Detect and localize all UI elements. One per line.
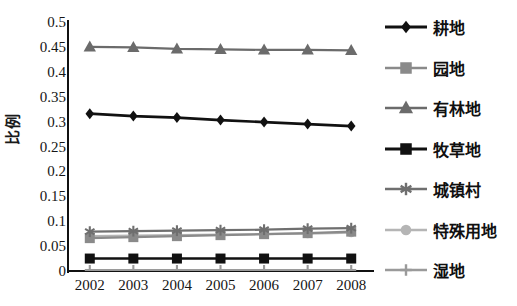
- legend-item-5[interactable]: 特殊用地: [383, 213, 517, 247]
- y-axis-tick-labels: 00.050.10.150.20.250.30.350.40.450.5: [16, 0, 66, 306]
- x-tick-label: 2005: [198, 277, 244, 294]
- data-point-marker: [400, 143, 412, 155]
- x-tick-label: 2006: [241, 277, 287, 294]
- data-point-marker: [216, 115, 225, 126]
- legend-label: 湿地: [433, 258, 465, 282]
- legend-marker-square-icon: [383, 55, 429, 81]
- data-point-marker: [401, 224, 412, 235]
- x-tick-label: 2008: [328, 277, 374, 294]
- data-point-marker: [85, 108, 94, 119]
- legend-item-3[interactable]: 牧草地: [383, 132, 517, 166]
- data-point-marker: [216, 265, 226, 271]
- data-point-marker: [346, 254, 356, 264]
- y-tick-label: 0.5: [20, 16, 66, 28]
- data-point-marker: [401, 21, 411, 34]
- x-tick-label: 2004: [154, 277, 200, 294]
- legend-item-4[interactable]: 城镇村: [383, 172, 517, 206]
- y-tick-label: 0.35: [20, 91, 66, 103]
- x-tick-label: 2007: [285, 277, 331, 294]
- data-point-marker: [172, 265, 182, 271]
- x-tick-label: 2002: [67, 277, 113, 294]
- data-point-marker: [303, 265, 313, 271]
- data-point-marker: [400, 264, 412, 276]
- legend-item-6[interactable]: 湿地: [383, 253, 517, 287]
- y-tick-label: 0: [20, 265, 66, 277]
- legend-marker-diamond-icon: [383, 14, 429, 40]
- legend-marker-triangle-icon: [383, 95, 429, 121]
- legend-item-2[interactable]: 有林地: [383, 91, 517, 125]
- y-tick-label: 0.4: [20, 66, 66, 78]
- data-point-marker: [85, 265, 95, 271]
- data-point-marker: [128, 254, 138, 264]
- y-tick-label: 0.2: [20, 165, 66, 177]
- legend-item-0[interactable]: 耕地: [383, 10, 517, 44]
- data-point-marker: [259, 254, 269, 264]
- data-point-marker: [260, 117, 269, 128]
- series-2: [84, 40, 358, 55]
- data-point-marker: [85, 254, 95, 264]
- legend-label: 有林地: [433, 96, 481, 120]
- data-point-marker: [216, 254, 226, 264]
- data-point-marker: [172, 254, 182, 264]
- legend-label: 城镇村: [433, 177, 481, 201]
- legend-marker-plus-icon: [383, 257, 429, 283]
- series-6: [85, 265, 356, 271]
- legend-label: 园地: [433, 56, 465, 80]
- series-3: [85, 254, 356, 264]
- data-point-marker: [128, 265, 138, 271]
- y-tick-label: 0.45: [20, 41, 66, 53]
- plot-area: [68, 22, 373, 271]
- legend-label: 特殊用地: [433, 218, 497, 242]
- x-tick-label: 2003: [110, 277, 156, 294]
- y-tick-label: 0.3: [20, 116, 66, 128]
- legend-label: 耕地: [433, 15, 465, 39]
- y-tick-label: 0.25: [20, 141, 66, 153]
- legend-marker-asterisk-icon: [383, 176, 429, 202]
- data-point-marker: [303, 119, 312, 130]
- chart-figure: 比例 00.050.10.150.20.250.30.350.40.450.5 …: [0, 0, 517, 306]
- data-point-marker: [129, 111, 138, 122]
- y-tick-label: 0.15: [20, 190, 66, 202]
- chart-legend: 耕地园地有林地牧草地城镇村特殊用地湿地: [383, 10, 517, 300]
- data-point-marker: [173, 112, 182, 123]
- legend-marker-square-icon: [383, 136, 429, 162]
- data-point-marker: [400, 62, 412, 74]
- data-point-marker: [347, 121, 356, 132]
- y-tick-label: 0.1: [20, 215, 66, 227]
- legend-item-1[interactable]: 园地: [383, 51, 517, 85]
- data-point-marker: [303, 254, 313, 264]
- legend-marker-circle-icon: [383, 217, 429, 243]
- data-point-marker: [346, 265, 356, 271]
- data-point-marker: [259, 265, 269, 271]
- series-0: [85, 108, 355, 131]
- legend-label: 牧草地: [433, 137, 481, 161]
- y-tick-label: 0.05: [20, 240, 66, 252]
